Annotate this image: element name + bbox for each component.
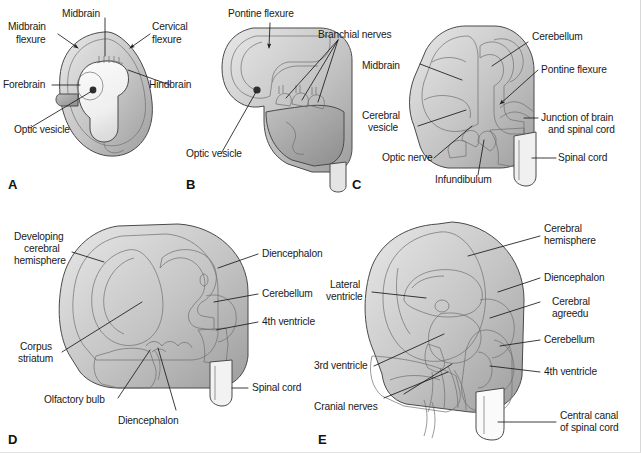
spinal-cord-stub-b xyxy=(330,162,346,192)
label-spinal-cord-c: Spinal cord xyxy=(558,152,608,163)
label-optic-nerve-c: Optic nerve xyxy=(382,152,433,163)
label-cervical-flexure-line1: Cervical xyxy=(152,21,188,32)
label-hindbrain: Hindbrain xyxy=(149,79,191,90)
label-cerebral-vesicle-line1: Cerebral xyxy=(362,110,400,121)
label-cerebral-hemisphere-line2: hemisphere xyxy=(544,235,596,246)
label-central-canal-line1: Central canal xyxy=(560,410,618,421)
optic-vesicle-marker-b xyxy=(253,86,260,93)
spinal-cord-tube-d xyxy=(210,360,232,406)
label-corpus-striatum-line1: Corpus xyxy=(20,341,52,352)
label-branchial-nerves: Branchial nerves xyxy=(318,29,392,40)
label-midbrain-a: Midbrain xyxy=(62,8,100,19)
panel-letter-e: E xyxy=(318,432,327,447)
label-diencephalon-right-d: Diencephalon xyxy=(262,248,323,259)
label-pontine-flexure-c: Pontine flexure xyxy=(541,64,607,75)
label-cranial-nerves-e: Cranial nerves xyxy=(314,401,378,412)
label-midbrain-flexure-line2: flexure xyxy=(16,34,46,45)
figure-canvas: Midbrain Midbrain flexure Cervical flexu… xyxy=(0,0,641,453)
label-cerebral-hemisphere-line1: Cerebral xyxy=(544,223,582,234)
label-midbrain-c: Midbrain xyxy=(362,60,400,71)
label-cerebellum-e: Cerebellum xyxy=(544,334,595,345)
label-diencephalon-e: Diencephalon xyxy=(544,272,605,283)
spinal-cord-tube-e xyxy=(476,388,504,440)
panel-letter-a: A xyxy=(8,177,18,192)
optic-vesicle-marker xyxy=(90,87,97,94)
label-optic-vesicle-b: Optic vesicle xyxy=(186,148,242,159)
panel-letter-c: C xyxy=(352,177,362,192)
label-spinal-cord-d: Spinal cord xyxy=(252,382,302,393)
label-developing-line3: hemisphere xyxy=(14,255,66,266)
label-forebrain: Forebrain xyxy=(3,79,45,90)
label-midbrain-flexure-line1: Midbrain xyxy=(8,21,46,32)
brain-development-figure: Midbrain Midbrain flexure Cervical flexu… xyxy=(0,0,641,453)
label-corpus-striatum-line2: striatum xyxy=(18,353,53,364)
label-lateral-ventricle-line1: Lateral xyxy=(330,279,360,290)
label-infundibulum-c: Infundibulum xyxy=(435,174,492,185)
label-cerebral-aqueduct-line2: agreedu xyxy=(552,308,588,319)
label-central-canal-line2: of spinal cord xyxy=(560,422,619,433)
label-junction-line1: Junction of brain xyxy=(541,112,613,123)
embryo-stalk xyxy=(56,94,78,106)
label-diencephalon-bottom-d: Diencephalon xyxy=(118,415,179,426)
panel-letter-b: B xyxy=(186,177,195,192)
panel-letter-d: D xyxy=(8,432,17,447)
label-optic-vesicle-a: Optic vesicle xyxy=(14,124,70,135)
label-cerebral-aqueduct-line1: Cerebral xyxy=(552,296,590,307)
label-third-ventricle-e: 3rd ventricle xyxy=(314,360,368,371)
label-cervical-flexure-line2: flexure xyxy=(152,34,182,45)
label-fourth-ventricle-e: 4th ventricle xyxy=(544,366,597,377)
label-fourth-ventricle-d: 4th ventricle xyxy=(262,316,315,327)
label-pontine-flexure-b: Pontine flexure xyxy=(228,8,294,19)
spinal-cord-tube-c xyxy=(514,132,536,186)
label-olfactory-bulb-d: Olfactory bulb xyxy=(44,394,105,405)
label-developing-line1: Developing xyxy=(14,231,64,242)
label-cerebellum-d: Cerebellum xyxy=(262,288,313,299)
label-lateral-ventricle-line2: ventricle xyxy=(326,291,363,302)
label-junction-line2: and spinal cord xyxy=(548,124,615,135)
label-cerebellum-c: Cerebellum xyxy=(532,31,583,42)
label-cerebral-vesicle-line2: vesicle xyxy=(368,122,399,133)
label-developing-line2: cerebral xyxy=(24,243,60,254)
